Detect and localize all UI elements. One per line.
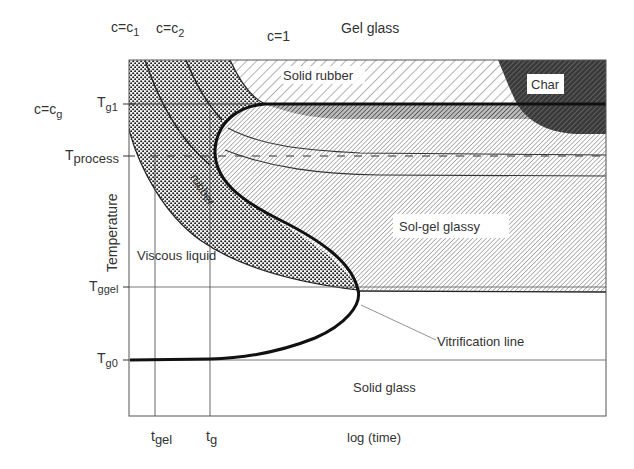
label-gel-glass: Gel glass	[341, 20, 399, 36]
label-viscous-liquid: Viscous liquid	[137, 248, 216, 263]
label-c-c1: c=c1	[111, 19, 139, 38]
tick-label-tg: tg	[206, 428, 217, 447]
label-c-cg: c=cg	[34, 101, 62, 120]
ttt-diagram: c=c1 c=c2 c=1 Gel glass c=cg Temperature…	[0, 0, 634, 469]
tick-label-tggel: Tggel	[89, 278, 118, 295]
label-solid-rubber: Solid rubber	[283, 68, 354, 83]
tick-label-tgel: tgel	[151, 428, 172, 447]
vitrification-leader-line	[361, 305, 436, 340]
label-vitrification-line: Vitrification line	[437, 334, 524, 349]
y-axis-title: Temperature	[104, 193, 120, 272]
tick-label-tg0: Tg0	[97, 350, 118, 369]
x-axis-title: log (time)	[347, 430, 401, 445]
plot-area	[123, 60, 606, 422]
label-char: Char	[531, 77, 560, 92]
label-solid-glass: Solid glass	[353, 380, 416, 395]
tick-label-tprocess: Tprocess	[65, 147, 120, 166]
label-sol-gel-glassy: Sol-gel glassy	[399, 219, 480, 234]
label-c-c2: c=c2	[156, 20, 184, 39]
label-c-one: c=1	[267, 28, 290, 44]
tick-label-tg1: Tg1	[97, 94, 118, 113]
